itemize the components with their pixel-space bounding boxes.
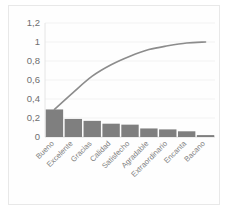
y-axis-tick-label: 1: [35, 36, 40, 47]
bar: [197, 135, 214, 137]
x-axis-category-label: Bacano: [182, 139, 207, 164]
bar: [159, 129, 176, 137]
y-axis-tick-label: 0,4: [27, 93, 40, 104]
bar: [102, 124, 119, 137]
bar: [84, 121, 101, 137]
y-axis-tick-label: 1,2: [27, 17, 40, 28]
y-axis-tick-label: 0,2: [27, 112, 40, 123]
bar: [140, 128, 157, 137]
y-axis-tick-label: 0,6: [27, 74, 40, 85]
pareto-chart: 00,20,40,60,811,2BuenoExcelenteGraciasCa…: [9, 6, 219, 204]
bar: [178, 131, 195, 137]
chart-frame: 00,20,40,60,811,2BuenoExcelenteGraciasCa…: [8, 5, 220, 205]
bar: [121, 125, 138, 137]
bar: [46, 109, 63, 137]
y-axis-tick-label: 0: [35, 131, 40, 142]
y-axis-tick-label: 0,8: [27, 55, 40, 66]
bar: [65, 119, 82, 137]
chart-canvas: 00,20,40,60,811,2BuenoExcelenteGraciasCa…: [9, 6, 221, 206]
